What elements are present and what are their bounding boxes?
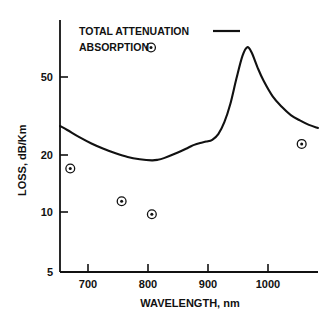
y-axis-ticks <box>60 77 68 212</box>
loss-vs-wavelength-chart: 50 20 10 5 LOSS, dB/Km 700 800 900 1000 … <box>0 0 330 317</box>
y-axis-tick-labels: 50 20 10 5 <box>41 71 53 278</box>
x-tick-label-700: 700 <box>79 278 97 290</box>
absorption-data-points <box>66 140 306 219</box>
legend-label-total-attenuation: TOTAL ATTENUATION <box>79 25 189 37</box>
legend: TOTAL ATTENUATION ABSORPTION <box>79 25 240 53</box>
total-attenuation-curve <box>60 47 318 160</box>
x-axis-title: WAVELENGTH, nm <box>140 297 240 309</box>
absorption-marker <box>66 164 75 173</box>
y-tick-label-50: 50 <box>41 71 53 83</box>
absorption-marker <box>297 140 306 149</box>
y-axis-title: LOSS, dB/Km <box>16 124 28 196</box>
y-tick-label-5: 5 <box>47 266 53 278</box>
x-tick-label-900: 900 <box>199 278 217 290</box>
x-axis-tick-labels: 700 800 900 1000 <box>79 278 280 290</box>
absorption-marker <box>147 210 156 219</box>
absorption-marker <box>117 197 126 206</box>
figure-canvas: 50 20 10 5 LOSS, dB/Km 700 800 900 1000 … <box>0 0 330 317</box>
legend-label-absorption: ABSORPTION <box>79 41 149 53</box>
x-axis-ticks <box>88 264 268 272</box>
x-tick-label-1000: 1000 <box>256 278 280 290</box>
x-tick-label-800: 800 <box>139 278 157 290</box>
y-tick-label-20: 20 <box>41 149 53 161</box>
y-tick-label-10: 10 <box>41 206 53 218</box>
